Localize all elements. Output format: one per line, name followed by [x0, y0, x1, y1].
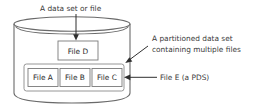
file-b-box[interactable]: File B — [60, 69, 90, 87]
cylinder-top-lip — [16, 27, 129, 35]
annotation-data-set-or-file: A data set or file — [40, 4, 102, 41]
pds-arrow-shaft — [129, 46, 149, 61]
cylinder-bottom-curve — [14, 93, 130, 103]
file-a-box[interactable]: File A — [28, 69, 58, 87]
annotation-partitioned-data-set: A partitioned data set containing multip… — [125, 34, 241, 63]
file-d-box[interactable]: File D — [58, 41, 98, 60]
top-label-text: A data set or file — [40, 4, 102, 13]
top-arrow-head — [73, 34, 79, 40]
annotation-file-e: File E (a PDS) — [124, 73, 209, 82]
pds-container[interactable]: File A File B File C — [24, 64, 124, 91]
file-c-box[interactable]: File C — [92, 69, 122, 87]
data-set-diagram: File D File A File B File C A data set o… — [0, 0, 262, 109]
diagram-canvas: File D File A File B File C A data set o… — [0, 0, 262, 109]
file-b-label: File B — [65, 73, 85, 82]
file-e-label-text: File E (a PDS) — [160, 73, 209, 82]
file-c-label: File C — [97, 73, 117, 82]
file-e-arrow-head — [124, 74, 130, 80]
file-a-label: File A — [33, 73, 53, 82]
pds-label-line-2: containing multiple files — [152, 45, 241, 54]
file-d-label: File D — [68, 47, 89, 56]
pds-label-line-1: A partitioned data set — [152, 34, 233, 43]
cylinder-top-ellipse — [14, 17, 130, 31]
